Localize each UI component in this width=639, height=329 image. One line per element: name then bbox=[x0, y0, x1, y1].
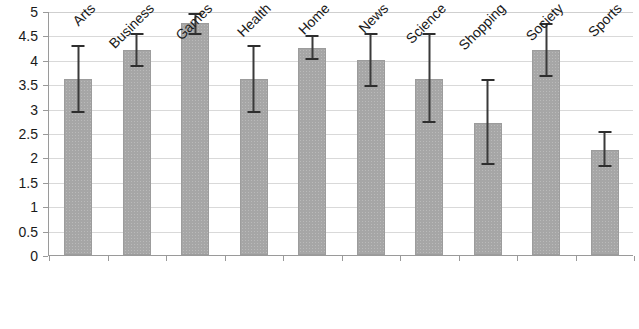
error-bar-cap-lower bbox=[540, 75, 553, 77]
x-axis-tick-mark bbox=[400, 256, 401, 261]
error-bar-cap-lower bbox=[598, 165, 611, 167]
error-bar bbox=[423, 33, 436, 123]
y-axis-tick-mark bbox=[43, 36, 48, 37]
y-axis-tick-label: 2.5 bbox=[0, 126, 38, 142]
bar bbox=[357, 60, 385, 255]
y-axis-tick-label: 3 bbox=[0, 102, 38, 118]
y-axis-tick-label: 4 bbox=[0, 53, 38, 69]
error-bar bbox=[481, 79, 494, 164]
error-bar-stem bbox=[370, 33, 372, 87]
y-axis-tick-mark bbox=[43, 110, 48, 111]
error-bar-cap-upper bbox=[598, 131, 611, 133]
error-bar bbox=[306, 35, 319, 59]
x-axis-tick-mark bbox=[49, 256, 50, 261]
x-axis-tick-mark bbox=[108, 256, 109, 261]
error-bar-cap-lower bbox=[247, 111, 260, 113]
y-axis-tick-mark bbox=[43, 207, 48, 208]
bar-group bbox=[576, 11, 635, 255]
y-axis-tick-mark bbox=[43, 232, 48, 233]
error-bar-stem bbox=[428, 33, 430, 123]
y-axis-tick-mark bbox=[43, 256, 48, 257]
bar-group bbox=[283, 11, 342, 255]
bar-group bbox=[400, 11, 459, 255]
y-axis-tick-label: 1 bbox=[0, 199, 38, 215]
error-bar-cap-lower bbox=[423, 121, 436, 123]
error-bar bbox=[364, 33, 377, 87]
x-axis-tick-mark bbox=[166, 256, 167, 261]
y-axis-tick-mark bbox=[43, 61, 48, 62]
y-axis-tick-mark bbox=[43, 12, 48, 13]
y-axis-tick-label: 0.5 bbox=[0, 224, 38, 240]
y-axis-tick-label: 2 bbox=[0, 150, 38, 166]
y-axis-tick-mark bbox=[43, 85, 48, 86]
error-bar-cap-upper bbox=[247, 45, 260, 47]
bar bbox=[181, 23, 209, 255]
x-axis-tick-mark bbox=[576, 256, 577, 261]
y-axis-tick-label: 5 bbox=[0, 4, 38, 20]
bars-layer bbox=[49, 12, 633, 255]
x-axis-tick-mark bbox=[517, 256, 518, 261]
x-axis-tick-mark bbox=[283, 256, 284, 261]
y-axis-tick-label: 1.5 bbox=[0, 175, 38, 191]
error-bar-stem bbox=[487, 79, 489, 164]
y-axis-tick-label: 0 bbox=[0, 248, 38, 264]
y-axis-tick-mark bbox=[43, 183, 48, 184]
plot-area bbox=[48, 12, 633, 256]
bar bbox=[532, 50, 560, 255]
error-bar-cap-upper bbox=[72, 45, 85, 47]
error-bar-cap-lower bbox=[481, 163, 494, 165]
error-bar-stem bbox=[77, 45, 79, 113]
x-axis-tick-mark bbox=[225, 256, 226, 261]
bar bbox=[123, 50, 151, 255]
bar-group bbox=[166, 11, 225, 255]
x-axis-tick-mark bbox=[342, 256, 343, 261]
error-bar-stem bbox=[604, 131, 606, 168]
error-bar-stem bbox=[253, 45, 255, 113]
bar-group bbox=[517, 11, 576, 255]
bar-group bbox=[49, 11, 108, 255]
y-axis-tick-mark bbox=[43, 158, 48, 159]
bar bbox=[298, 48, 326, 255]
y-axis-tick-mark bbox=[43, 134, 48, 135]
error-bar-cap-lower bbox=[130, 65, 143, 67]
error-bar bbox=[598, 131, 611, 168]
error-bar bbox=[130, 33, 143, 67]
error-bar-stem bbox=[136, 33, 138, 67]
y-axis-tick-label: 4.5 bbox=[0, 28, 38, 44]
error-bar-cap-lower bbox=[72, 111, 85, 113]
error-bar bbox=[247, 45, 260, 113]
error-bar-stem bbox=[311, 35, 313, 59]
error-bar-cap-lower bbox=[306, 58, 319, 60]
error-bar-cap-upper bbox=[481, 79, 494, 81]
error-bar-cap-lower bbox=[364, 85, 377, 87]
y-axis-tick-label: 3.5 bbox=[0, 77, 38, 93]
error-bar bbox=[72, 45, 85, 113]
bar-group bbox=[225, 11, 284, 255]
x-axis-tick-mark bbox=[634, 256, 635, 261]
x-axis-tick-mark bbox=[459, 256, 460, 261]
bar-group bbox=[342, 11, 401, 255]
bar-chart: 00.511.522.533.544.55 ArtsBusinessGamesH… bbox=[0, 0, 639, 329]
